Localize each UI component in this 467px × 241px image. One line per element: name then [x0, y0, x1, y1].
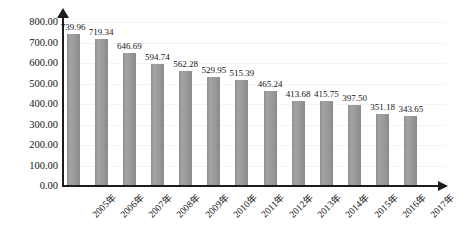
- x-axis-tick-label: 2008年: [175, 192, 203, 220]
- x-axis-tick-label: 2014年: [344, 192, 372, 220]
- x-axis-tick-label: 2017年: [428, 192, 456, 220]
- x-axis-tick-label: 2010年: [231, 192, 259, 220]
- bar-chart: 800.00700.00600.00500.00400.00300.00200.…: [0, 0, 467, 241]
- x-axis-tick-label: 2011年: [259, 192, 286, 219]
- x-axis-tick-label: 2015年: [372, 192, 400, 220]
- x-axis-tick-label: 2009年: [203, 192, 231, 220]
- x-axis-tick-label: 2016年: [400, 192, 428, 220]
- x-axis-tick-label: 2006年: [119, 192, 147, 220]
- x-axis-tick-label: 2012年: [288, 192, 316, 220]
- x-axis-tick-labels: 2005年2006年2007年2008年2009年2010年2011年2012年…: [0, 0, 467, 241]
- x-axis-tick-label: 2007年: [147, 192, 175, 220]
- x-axis-tick-label: 2013年: [316, 192, 344, 220]
- x-axis-tick-label: 2005年: [90, 192, 118, 220]
